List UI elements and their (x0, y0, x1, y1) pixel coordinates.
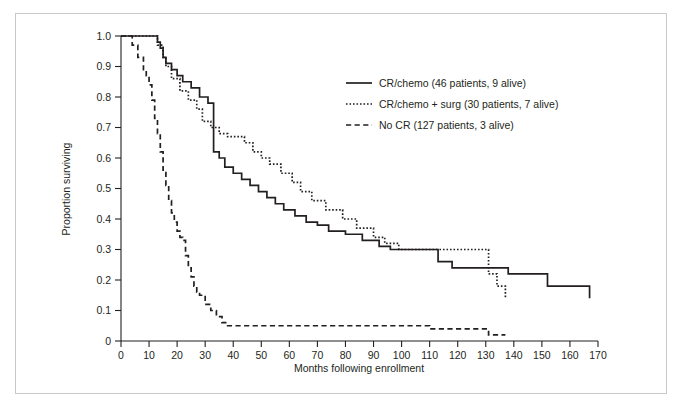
y-tick-label: 0 (105, 335, 111, 347)
x-tick-label: 140 (505, 349, 523, 361)
y-axis-tick-labels: 00.10.20.30.40.50.60.70.80.91.0 (96, 30, 111, 347)
x-tick-label: 20 (171, 349, 183, 361)
x-tick-label: 170 (589, 349, 607, 361)
y-tick-label: 0.5 (96, 182, 111, 194)
x-axis-tick-labels: 0102030405060708090100110120130140150160… (118, 349, 607, 361)
x-tick-label: 110 (421, 349, 438, 361)
x-tick-label: 150 (533, 349, 551, 361)
x-tick-label: 80 (340, 349, 352, 361)
x-tick-label: 50 (255, 349, 267, 361)
survival-curve-1 (121, 36, 590, 298)
x-tick-label: 60 (284, 349, 296, 361)
legend-label-3: No CR (127 patients, 3 alive) (379, 119, 514, 131)
y-tick-label: 1.0 (96, 30, 111, 42)
chart-legend: CR/chemo (46 patients, 9 alive)CR/chemo … (346, 77, 558, 131)
y-axis: 00.10.20.30.40.50.60.70.80.91.0 (96, 30, 121, 347)
y-tick-label: 0.6 (96, 152, 111, 164)
x-tick-label: 10 (143, 349, 155, 361)
y-axis-title: Proportion surviving (60, 142, 72, 235)
chart-canvas: 00.10.20.30.40.50.60.70.80.91.0 01020304… (0, 0, 683, 409)
y-tick-label: 0.9 (96, 60, 111, 72)
x-tick-label: 100 (393, 349, 411, 361)
y-tick-label: 0.4 (96, 213, 111, 225)
x-tick-label: 30 (199, 349, 211, 361)
y-tick-label: 0.1 (96, 304, 111, 316)
y-tick-label: 0.8 (96, 91, 111, 103)
y-tick-label: 0.7 (96, 121, 111, 133)
x-tick-label: 90 (368, 349, 380, 361)
y-axis-ticks (115, 36, 121, 341)
x-tick-label: 130 (477, 349, 495, 361)
x-tick-label: 70 (312, 349, 324, 361)
x-tick-label: 0 (118, 349, 124, 361)
legend-label-1: CR/chemo (46 patients, 9 alive) (379, 77, 526, 89)
x-tick-label: 160 (561, 349, 579, 361)
y-tick-label: 0.2 (96, 274, 111, 286)
x-axis-title: Months following enrollment (294, 362, 424, 374)
x-tick-label: 40 (227, 349, 239, 361)
x-axis: 0102030405060708090100110120130140150160… (118, 341, 607, 361)
x-tick-label: 120 (449, 349, 467, 361)
x-axis-ticks (121, 341, 598, 347)
y-tick-label: 0.3 (96, 243, 111, 255)
kaplan-meier-survival-chart: 00.10.20.30.40.50.60.70.80.91.0 01020304… (0, 0, 683, 409)
legend-label-2: CR/chemo + surg (30 patients, 7 alive) (379, 98, 558, 110)
